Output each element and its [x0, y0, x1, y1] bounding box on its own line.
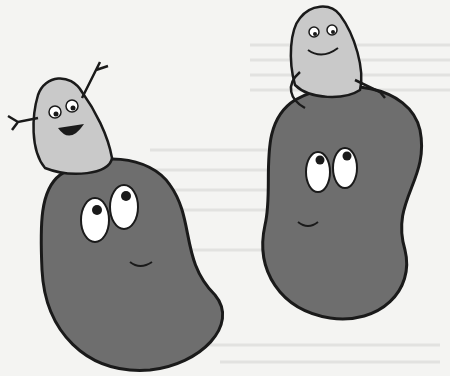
eye-icon [81, 198, 109, 242]
illustration [0, 0, 450, 376]
right-adrenal-gland [291, 7, 361, 97]
kidneys-illustration [0, 0, 450, 376]
right-kidney [263, 87, 422, 319]
